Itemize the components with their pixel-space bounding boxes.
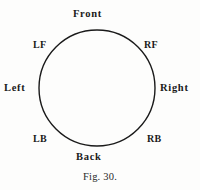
label-right-back: RB (147, 134, 162, 144)
circle-diagram: Front RF Right RB Back LB Left LF (0, 0, 200, 166)
label-left-back: LB (33, 134, 47, 144)
circle-shape (39, 30, 155, 146)
label-front: Front (73, 9, 102, 20)
label-right-front: RF (144, 40, 158, 50)
figure-caption: Fig. 30. (0, 172, 200, 183)
label-right: Right (160, 83, 189, 94)
figure-container: Front RF Right RB Back LB Left LF Fig. 3… (0, 0, 200, 190)
label-back: Back (76, 152, 102, 163)
label-left: Left (4, 83, 25, 94)
label-left-front: LF (33, 40, 46, 50)
